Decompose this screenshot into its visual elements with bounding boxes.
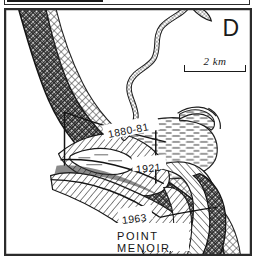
adjacent-panel-bottom-edge bbox=[4, 0, 250, 5]
scale-bar-label: 2 km bbox=[184, 55, 246, 67]
map-figure-panel-d: D 2 km 1880-81 1921 1963 POINT MENOIR bbox=[0, 0, 258, 264]
north-headland-stipple bbox=[190, 9, 212, 21]
scale-bar-line bbox=[184, 71, 246, 72]
scale-bar: 2 km bbox=[184, 56, 246, 78]
label-knockout-point-menoir bbox=[111, 223, 189, 251]
label-knockout-1921 bbox=[131, 155, 166, 172]
adjacent-panel-rule bbox=[7, 0, 103, 2]
map-frame: D 2 km 1880-81 1921 1963 POINT MENOIR bbox=[4, 8, 252, 256]
